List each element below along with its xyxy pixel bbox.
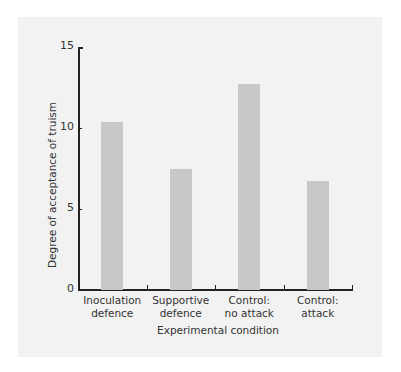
y-tick-label: 5 <box>58 202 74 214</box>
y-axis-title: Degree of acceptance of truism <box>46 102 58 268</box>
x-tick-label: Control:attack <box>278 294 358 320</box>
y-tick <box>78 128 82 129</box>
y-tick <box>78 209 82 210</box>
y-tick-label: 10 <box>58 121 74 133</box>
bar <box>307 181 329 290</box>
x-tick <box>284 285 285 289</box>
y-tick-label: 15 <box>58 40 74 52</box>
y-axis-top-tick <box>78 47 83 49</box>
bar <box>238 84 260 290</box>
bar <box>170 169 192 291</box>
x-axis-title: Experimental condition <box>118 324 318 336</box>
x-tick <box>147 285 148 289</box>
y-axis-line <box>78 47 80 290</box>
x-tick <box>215 285 216 289</box>
x-tick <box>352 285 353 289</box>
bar <box>101 122 123 290</box>
